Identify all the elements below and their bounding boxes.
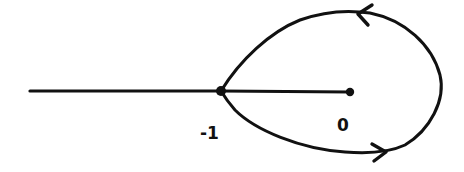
segment-minus-one-to-origin <box>221 91 350 92</box>
upper-arrow-icon <box>358 5 372 25</box>
root-locus-diagram <box>0 0 464 172</box>
origin-label: 0 <box>337 117 349 134</box>
minus-one-point <box>216 86 226 96</box>
origin-point <box>346 88 354 96</box>
closed-loop-contour <box>221 11 441 152</box>
minus-one-label: -1 <box>200 125 219 142</box>
